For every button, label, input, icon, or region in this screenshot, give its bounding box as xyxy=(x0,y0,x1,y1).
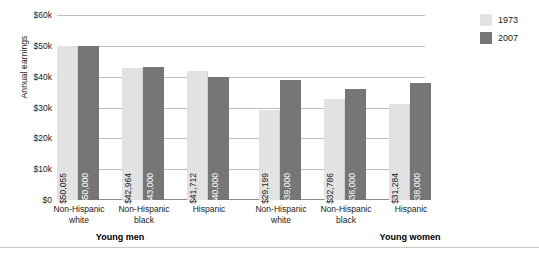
category-label-line2: black xyxy=(96,215,192,226)
legend-swatch-icon-2007 xyxy=(480,32,492,44)
ytick-label-10k: $10k xyxy=(34,164,52,174)
bar-2007-men-nonhispanic-black[interactable]: $43,000 xyxy=(143,67,164,200)
bar-1973-men-nonhispanic-black[interactable]: $42,964 xyxy=(122,68,143,200)
y-axis-title: Annual earnings xyxy=(19,7,29,127)
bar-value-label: $50,055 xyxy=(59,173,68,204)
category-label-line2: black xyxy=(298,215,394,226)
legend-item-2007[interactable]: 2007 xyxy=(480,32,518,44)
bar-value-label: $31,284 xyxy=(391,173,400,204)
bar-value-label: $42,964 xyxy=(124,173,133,204)
ytick-label-30k: $30k xyxy=(34,103,52,113)
bar-2007-men-hispanic[interactable]: $40,000 xyxy=(208,77,229,200)
category-label-women-hispanic: Hispanic xyxy=(363,204,459,215)
gridline-60k xyxy=(57,15,425,16)
bar-value-label: $39,000 xyxy=(282,173,291,204)
bar-value-label: $41,712 xyxy=(189,173,198,204)
legend-label-1973: 1973 xyxy=(498,15,518,25)
bar-1973-men-hispanic[interactable]: $41,712 xyxy=(187,71,208,200)
gridline-30k xyxy=(57,108,425,109)
legend-item-1973[interactable]: 1973 xyxy=(480,14,518,26)
ytick-label-40k: $40k xyxy=(34,72,52,82)
plot-area: $60k $50k $40k $30k $20k $10k $0 $50,055… xyxy=(57,15,425,200)
bar-2007-women-nonhispanic-black[interactable]: $36,000 xyxy=(345,89,366,200)
bar-2007-women-hispanic[interactable]: $38,000 xyxy=(410,83,431,200)
bar-value-label: $32,786 xyxy=(326,173,335,204)
gridline-20k xyxy=(57,138,425,139)
ytick-label-20k: $20k xyxy=(34,133,52,143)
bar-1973-women-hispanic[interactable]: $31,284 xyxy=(389,104,410,200)
bar-value-label: $40,000 xyxy=(210,173,219,204)
bar-value-label: $29,199 xyxy=(261,173,270,204)
legend-swatch-icon-1973 xyxy=(480,14,492,26)
legend-label-2007: 2007 xyxy=(498,33,518,43)
group-label-young-men: Young men xyxy=(30,232,210,242)
bar-1973-women-nonhispanic-white[interactable]: $29,199 xyxy=(259,110,280,200)
group-label-young-women: Young women xyxy=(320,232,500,242)
axis-baseline xyxy=(57,199,425,200)
ytick-label-60k: $60k xyxy=(34,10,52,20)
gridline-40k xyxy=(57,77,425,78)
bar-2007-men-nonhispanic-white[interactable]: $50,000 xyxy=(78,46,99,200)
bar-value-label: $50,000 xyxy=(80,173,89,204)
bar-1973-women-nonhispanic-black[interactable]: $32,786 xyxy=(324,99,345,200)
bar-1973-men-nonhispanic-white[interactable]: $50,055 xyxy=(57,46,78,200)
gridline-10k xyxy=(57,169,425,170)
ytick-label-50k: $50k xyxy=(34,41,52,51)
bar-value-label: $36,000 xyxy=(347,173,356,204)
gridline-50k xyxy=(57,46,425,47)
bar-value-label: $43,000 xyxy=(145,173,154,204)
bar-2007-women-nonhispanic-white[interactable]: $39,000 xyxy=(280,80,301,200)
bar-chart: Annual earnings $60k $50k $40k $30k $20k… xyxy=(0,0,539,255)
bottom-divider xyxy=(0,247,539,248)
legend: 1973 2007 xyxy=(480,14,518,50)
bar-value-label: $38,000 xyxy=(412,173,421,204)
category-label-line1: Hispanic xyxy=(363,204,459,215)
